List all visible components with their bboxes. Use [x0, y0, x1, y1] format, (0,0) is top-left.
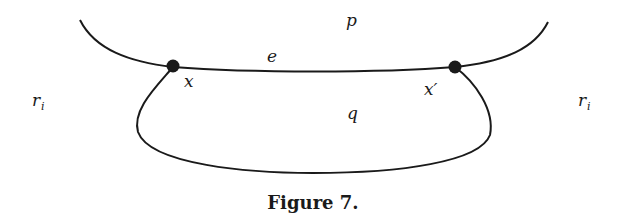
label-x-prime: x′ [424, 79, 438, 99]
figure-diagram: p e x x′ q r i r i Figure 7. [0, 0, 626, 215]
label-r-left: r [32, 90, 41, 110]
label-x: x [184, 71, 194, 91]
label-r-right-subscript: i [587, 100, 591, 113]
label-r-right: r [578, 90, 587, 110]
vertex-x-dot [167, 60, 180, 73]
vertex-x-prime-dot [449, 61, 462, 74]
figure-caption: Figure 7. [267, 192, 358, 213]
label-q: q [347, 103, 358, 123]
label-e: e [267, 46, 277, 66]
top-boundary-curve [80, 20, 548, 72]
label-r-left-subscript: i [41, 100, 45, 113]
label-p: p [346, 10, 357, 30]
